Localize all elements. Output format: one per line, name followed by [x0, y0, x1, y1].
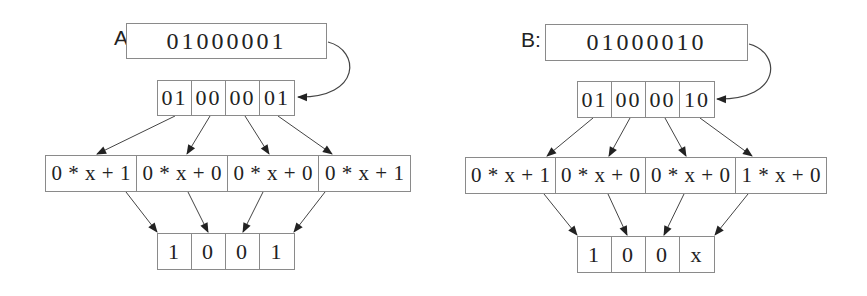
diagram-b-formula-cell: 0 * x + 0	[646, 158, 736, 193]
diagram-b-result-box: 1 0 0 x	[577, 236, 715, 273]
diagram-b-split-box: 01 00 00 10	[577, 81, 715, 118]
diagram-a-split-cell: 00	[226, 81, 260, 115]
diagram-b-split-cell: 00	[646, 82, 680, 117]
diagram-b-arrows	[544, 44, 771, 235]
diagram-a-split-cell: 01	[260, 81, 294, 115]
diagram-a-split-cell: 01	[158, 81, 192, 115]
diagram-b-result-cell: 0	[646, 237, 680, 272]
diagram-a-formula-cell: 0 * x + 0	[137, 156, 228, 191]
diagram-a-formula-cell: 0 * x + 1	[319, 156, 410, 191]
diagram-b-split-cell: 01	[578, 82, 612, 117]
diagram-a-formula-row: 0 * x + 1 0 * x + 0 0 * x + 0 0 * x + 1	[45, 155, 411, 192]
diagram-a-result-cell: 1	[260, 234, 294, 269]
diagram-b-split-cell: 00	[612, 82, 646, 117]
diagram-b-split-cell: 10	[680, 82, 714, 117]
diagram-b-result-cell: x	[680, 237, 714, 272]
diagram-canvas: A: 01000001 01 00 00 01 0 * x + 1 0 * x …	[0, 0, 867, 296]
diagram-b-byte-box: 01000010	[545, 24, 748, 61]
diagram-a-result-cell: 1	[158, 234, 192, 269]
diagram-a-split-box: 01 00 00 01	[157, 80, 295, 116]
diagram-a-arrows	[97, 42, 350, 232]
diagram-b-formula-cell: 0 * x + 0	[556, 158, 646, 193]
diagram-b-result-cell: 1	[578, 237, 612, 272]
diagram-b-result-cell: 0	[612, 237, 646, 272]
diagram-a-result-box: 1 0 0 1	[157, 233, 295, 270]
diagram-a-byte-box: 01000001	[126, 23, 327, 59]
diagram-b-formula-row: 0 * x + 1 0 * x + 0 0 * x + 0 1 * x + 0	[465, 157, 827, 194]
diagram-a-formula-cell: 0 * x + 0	[228, 156, 319, 191]
diagram-a-split-cell: 00	[192, 81, 226, 115]
diagram-b-label: B:	[521, 28, 541, 52]
diagram-b-formula-cell: 1 * x + 0	[736, 158, 826, 193]
diagram-b-formula-cell: 0 * x + 1	[466, 158, 556, 193]
diagram-a-formula-cell: 0 * x + 1	[46, 156, 137, 191]
diagram-a-result-cell: 0	[226, 234, 260, 269]
diagram-a-result-cell: 0	[192, 234, 226, 269]
